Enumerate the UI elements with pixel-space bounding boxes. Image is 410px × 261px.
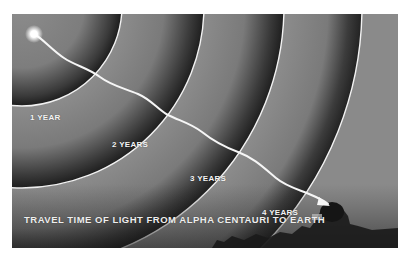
ring-label-3-years: 3 YEARS	[190, 174, 226, 183]
diagram-canvas	[12, 14, 398, 248]
star-icon	[31, 31, 38, 38]
ring-label-2-years: 2 YEARS	[112, 140, 148, 149]
light-travel-diagram: 1 YEAR 2 YEARS 3 YEARS 4 YEARS TRAVEL TI…	[12, 14, 398, 248]
ring-label-1-year: 1 YEAR	[30, 113, 61, 122]
caption: TRAVEL TIME OF LIGHT FROM ALPHA CENTAURI…	[24, 214, 325, 225]
